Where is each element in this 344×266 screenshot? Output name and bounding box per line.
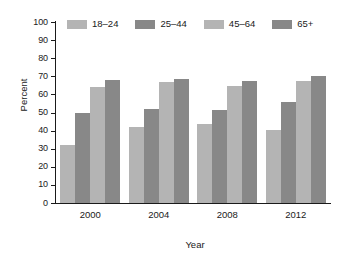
y-axis-tick [51, 203, 56, 204]
bar [90, 87, 105, 203]
legend-swatch [272, 20, 292, 29]
legend-swatch [204, 20, 224, 29]
bar [144, 109, 159, 203]
x-axis-line [55, 203, 331, 204]
bar [296, 81, 311, 203]
bar [242, 81, 257, 203]
x-axis-tick-label: 2008 [197, 210, 257, 220]
x-axis-tick-label: 2004 [129, 210, 189, 220]
bar [266, 130, 281, 203]
x-axis-title: Year [0, 240, 344, 250]
y-axis-title: Percent [19, 65, 29, 125]
y-axis-tick-label: 100 [8, 18, 48, 27]
bar [174, 79, 189, 203]
bar-group [197, 22, 257, 203]
legend-item: 65+ [272, 19, 313, 29]
bar [311, 76, 326, 203]
legend-label: 65+ [297, 19, 313, 29]
bar [129, 127, 144, 203]
y-axis-tick-label: 10 [8, 180, 48, 189]
legend-swatch [67, 20, 87, 29]
bar [60, 145, 75, 203]
bar [159, 82, 174, 203]
legend-label: 18–24 [92, 19, 118, 29]
legend-item: 45–64 [204, 19, 255, 29]
bar [197, 124, 212, 203]
y-axis-tick-label: 40 [8, 126, 48, 135]
bar [212, 110, 227, 203]
x-axis-tick-label: 2012 [266, 210, 326, 220]
y-axis-tick-label: 90 [8, 36, 48, 45]
bar-group [129, 22, 189, 203]
bar-group [60, 22, 120, 203]
y-axis-tick-label: 0 [8, 199, 48, 208]
x-axis-tick-label: 2000 [60, 210, 120, 220]
bar [281, 102, 296, 203]
legend-label: 45–64 [229, 19, 255, 29]
bar-chart-figure: 0102030405060708090100 Percent Year 2000… [0, 0, 344, 266]
legend-swatch [135, 20, 155, 29]
y-axis-tick-label: 80 [8, 54, 48, 63]
legend-label: 25–44 [160, 19, 186, 29]
legend-item: 18–24 [67, 19, 118, 29]
plot-area [56, 22, 330, 203]
bar [75, 113, 90, 204]
bar-group [266, 22, 326, 203]
y-axis-tick-label: 20 [8, 162, 48, 171]
y-axis-tick-label: 30 [8, 144, 48, 153]
bar [105, 80, 120, 203]
legend-item: 25–44 [135, 19, 186, 29]
chart-legend: 18–2425–4445–6465+ [67, 19, 330, 29]
bar [227, 86, 242, 203]
